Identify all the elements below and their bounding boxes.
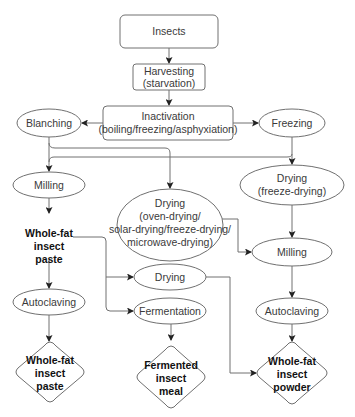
node-label: insect [34, 240, 65, 252]
node-label: Harvesting [144, 65, 194, 77]
node-insects: Insects [120, 15, 218, 48]
node-label: meal [159, 385, 183, 397]
node-label: Fermentation [139, 305, 201, 317]
node-milling-right: Milling [252, 238, 332, 266]
edge-paste-fermentation [106, 277, 133, 311]
node-paste-intermediate: Whole-fat insect paste [25, 227, 73, 265]
node-milling-left: Milling [13, 172, 85, 198]
node-fermentation: Fermentation [134, 298, 206, 324]
node-label: Whole-fat [268, 355, 316, 367]
node-label: (boiling/freezing/asphyxiation) [99, 123, 238, 135]
node-autoclaving-left: Autoclaving [13, 289, 85, 315]
node-label: insect [277, 368, 308, 380]
node-label: (oven-drying/ [139, 210, 200, 222]
node-label: Freezing [272, 117, 313, 129]
node-label: Milling [34, 179, 64, 191]
node-label: insect [156, 372, 187, 384]
node-label: microwave-drying) [127, 236, 213, 248]
node-label: Autoclaving [265, 305, 319, 317]
node-autoclaving-right: Autoclaving [256, 298, 328, 324]
node-label: Milling [277, 246, 307, 258]
node-label: (freeze-drying) [258, 185, 326, 197]
node-label: Blanching [26, 117, 72, 129]
edge-drying-small-product-powder [206, 277, 256, 373]
node-label: insect [35, 367, 66, 379]
node-harvesting: Harvesting (starvation) [133, 64, 205, 90]
node-freezing: Freezing [259, 109, 325, 137]
node-product-powder: Whole-fat insect powder [257, 342, 327, 404]
node-label: Whole-fat [25, 227, 73, 239]
node-product-meal: Fermented insect meal [137, 346, 205, 408]
node-label: paste [36, 380, 64, 392]
node-inactivation: Inactivation (boiling/freezing/asphyxiat… [99, 106, 238, 140]
node-label: powder [273, 381, 310, 393]
node-label: Whole-fat [26, 354, 74, 366]
node-label: Autoclaving [22, 296, 76, 308]
node-drying-freeze: Drying (freeze-drying) [240, 165, 344, 205]
node-label: Inactivation [141, 110, 194, 122]
node-label: (starvation) [143, 77, 196, 89]
node-drying-center: Drying (oven-drying/ solar-drying/freeze… [109, 189, 231, 261]
insect-processing-flowchart: Insects Harvesting (starvation) Inactiva… [0, 0, 355, 417]
node-label: Drying [155, 271, 186, 283]
node-product-paste: Whole-fat insect paste [16, 342, 84, 402]
node-blanching: Blanching [17, 109, 81, 137]
node-drying-small: Drying [134, 264, 206, 290]
node-label: paste [35, 253, 63, 265]
node-label: solar-drying/freeze-drying/ [109, 223, 231, 235]
node-label: Drying [155, 197, 186, 209]
node-label: Fermented [144, 359, 198, 371]
node-label: Insects [152, 25, 185, 37]
node-label: Drying [277, 172, 308, 184]
